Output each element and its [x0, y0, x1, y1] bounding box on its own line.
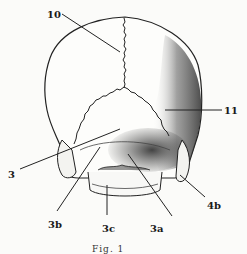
label-3: 3 — [8, 170, 15, 180]
label-11: 11 — [224, 106, 238, 116]
label-3b: 3b — [48, 220, 62, 230]
occipital-base — [88, 172, 162, 196]
label-3c: 3c — [102, 224, 115, 234]
label-10: 10 — [47, 10, 61, 20]
label-3a: 3a — [150, 224, 163, 234]
figure-caption: Fig. 1 — [92, 244, 124, 254]
label-4b: 4b — [207, 201, 221, 211]
